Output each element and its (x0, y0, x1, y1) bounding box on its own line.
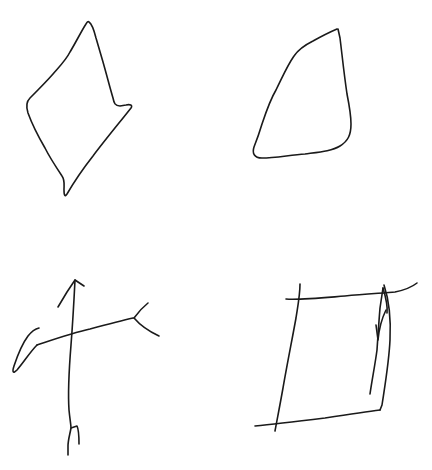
stick-figure-cross-sketch (13, 280, 159, 455)
square-with-arrow-sketch (255, 283, 417, 431)
rounded-triangle-sketch (253, 29, 351, 158)
drawing-canvas (0, 0, 432, 470)
kite-diamond-sketch (27, 22, 132, 196)
sketch-layer (0, 0, 432, 470)
